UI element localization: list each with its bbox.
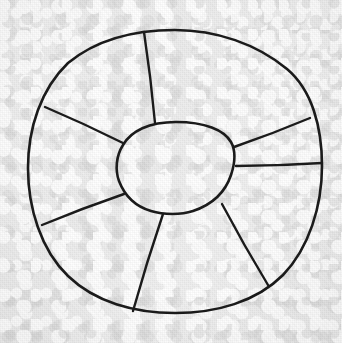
spoke-right (236, 163, 322, 166)
spoke-lower-right (222, 204, 268, 285)
outer-circle (28, 30, 322, 313)
spoke-lower-left (42, 194, 124, 225)
spoke-top (144, 32, 155, 123)
spoke-upper-left (45, 107, 123, 143)
drawing-canvas (0, 0, 342, 343)
inner-circle (117, 122, 235, 214)
spoke-bottom (133, 214, 163, 311)
annulus-sector-figure (0, 0, 342, 343)
spoke-upper-right (234, 118, 310, 147)
